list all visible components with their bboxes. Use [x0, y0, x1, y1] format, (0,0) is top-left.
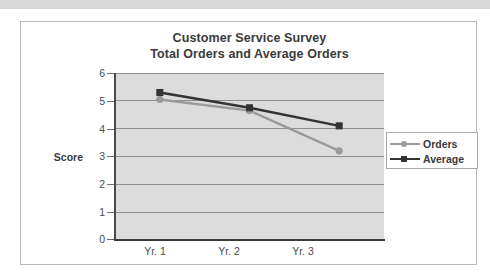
chart-figure-frame: Customer Service Survey Total Orders and…	[20, 21, 477, 265]
y-tick-label-6: 6	[83, 68, 105, 78]
x-axis-line	[114, 239, 385, 241]
y-tick-label-4: 4	[83, 124, 105, 134]
legend-swatch-orders	[387, 138, 423, 150]
y-tick-mark-4	[107, 129, 114, 130]
gridline-3	[115, 156, 384, 157]
y-tick-label-5: 5	[83, 96, 105, 106]
y-tick-label-2: 2	[83, 179, 105, 189]
gridline-5	[115, 100, 384, 101]
legend-item-orders[interactable]: Orders	[387, 136, 479, 151]
chart-title: Customer Service Survey Total Orders and…	[21, 30, 478, 62]
y-axis-title: Score	[35, 151, 83, 163]
y-tick-mark-1	[107, 212, 114, 213]
gridline-6	[115, 73, 384, 74]
chart-title-line2: Total Orders and Average Orders	[21, 46, 478, 62]
y-tick-mark-5	[107, 101, 114, 102]
y-tick-label-0: 0	[83, 234, 105, 244]
chart-title-line1: Customer Service Survey	[173, 31, 327, 45]
gridline-1	[115, 212, 384, 213]
legend-swatch-average	[387, 153, 423, 165]
y-tick-mark-6	[107, 73, 114, 74]
gridline-2	[115, 184, 384, 185]
top-banner-strip	[0, 0, 490, 9]
legend-label-orders: Orders	[423, 138, 457, 150]
square-marker-icon	[401, 156, 407, 162]
y-tick-label-3: 3	[83, 151, 105, 161]
x-tick-label-yr3: Yr. 3	[273, 245, 333, 257]
gridline-4	[115, 128, 384, 129]
y-tick-label-1: 1	[83, 207, 105, 217]
x-tick-label-yr2: Yr. 2	[199, 245, 259, 257]
y-tick-mark-2	[107, 184, 114, 185]
chart-legend: Orders Average	[386, 132, 478, 169]
x-tick-label-yr1: Yr. 1	[125, 245, 185, 257]
legend-label-average: Average	[423, 153, 464, 165]
y-tick-mark-3	[107, 156, 114, 157]
plot-area	[115, 73, 384, 240]
y-axis-line	[114, 73, 116, 241]
circle-marker-icon	[401, 141, 407, 147]
legend-item-average[interactable]: Average	[387, 151, 479, 166]
y-tick-mark-0	[107, 239, 114, 240]
